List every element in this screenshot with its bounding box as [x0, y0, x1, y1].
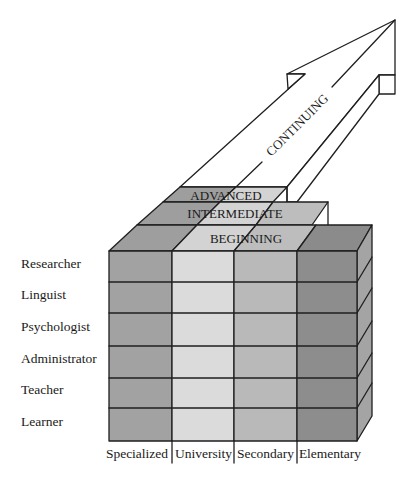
role-label-teacher: Teacher: [21, 382, 64, 397]
role-label-researcher: Researcher: [21, 256, 81, 271]
role-label-administrator: Administrator: [21, 351, 97, 366]
setting-label-specialized: Specialized: [106, 446, 168, 461]
role-label-learner: Learner: [21, 414, 63, 429]
role-label-psychologist: Psychologist: [21, 319, 90, 334]
level-label-intermediate: INTERMEDIATE: [187, 206, 282, 221]
setting-label-university: University: [175, 446, 232, 461]
setting-label-secondary: Secondary: [237, 446, 294, 461]
education-levels-cube-diagram: CONTINUING ADVANCED INTERMEDIATE BEGINNI…: [0, 0, 415, 479]
cube-front-face: [109, 251, 357, 463]
level-label-advanced: ADVANCED: [190, 188, 261, 203]
continuing-arrow: CONTINUING: [180, 20, 395, 202]
arrow-right-barb-face: [379, 75, 395, 94]
diagram-canvas: CONTINUING ADVANCED INTERMEDIATE BEGINNI…: [0, 0, 415, 479]
level-beginning: BEGINNING: [109, 225, 372, 251]
level-advanced: ADVANCED: [163, 187, 287, 203]
level-intermediate: INTERMEDIATE: [137, 202, 328, 225]
role-label-linguist: Linguist: [21, 287, 66, 302]
role-labels: Researcher Linguist Psychologist Adminis…: [21, 256, 97, 429]
setting-label-elementary: Elementary: [299, 446, 361, 461]
level-label-beginning: BEGINNING: [210, 231, 282, 246]
cube-side-face: [357, 225, 372, 441]
